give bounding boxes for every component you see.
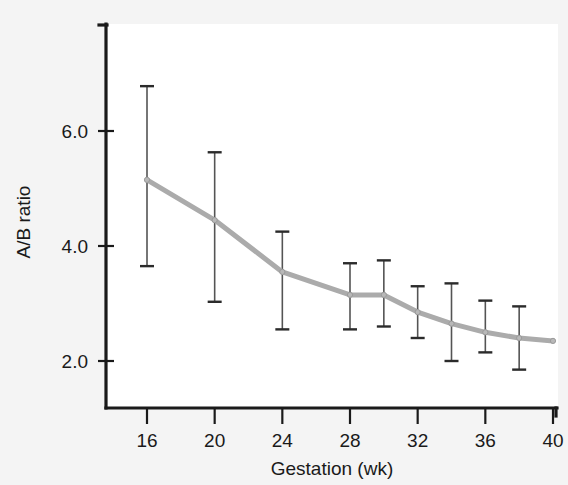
data-point-marker xyxy=(381,292,386,297)
chart-figure: 2.04.06.0 16202428323640 Gestation (wk) … xyxy=(0,0,568,485)
x-tick-label: 36 xyxy=(475,430,496,451)
y-tick-label: 4.0 xyxy=(62,236,88,257)
data-point-marker xyxy=(517,335,522,340)
line-chart-with-error-bars: 2.04.06.0 16202428323640 Gestation (wk) … xyxy=(0,0,568,485)
data-point-marker xyxy=(212,218,217,223)
x-tick-label: 28 xyxy=(339,430,360,451)
data-point-marker xyxy=(415,310,420,315)
data-point-marker xyxy=(550,338,555,343)
x-tick-label: 40 xyxy=(542,430,563,451)
y-tick-label: 6.0 xyxy=(62,121,88,142)
data-point-marker xyxy=(144,177,149,182)
data-point-marker xyxy=(347,292,352,297)
data-point-marker xyxy=(280,269,285,274)
x-axis-title: Gestation (wk) xyxy=(271,458,393,479)
x-tick-label: 20 xyxy=(204,430,225,451)
data-point-marker xyxy=(449,321,454,326)
x-tick-label: 32 xyxy=(407,430,428,451)
data-point-marker xyxy=(483,330,488,335)
x-tick-label: 24 xyxy=(272,430,294,451)
y-tick-label: 2.0 xyxy=(62,351,88,372)
y-axis-title: A/B ratio xyxy=(13,186,34,259)
plot-area-background xyxy=(106,24,558,408)
x-tick-label: 16 xyxy=(136,430,157,451)
